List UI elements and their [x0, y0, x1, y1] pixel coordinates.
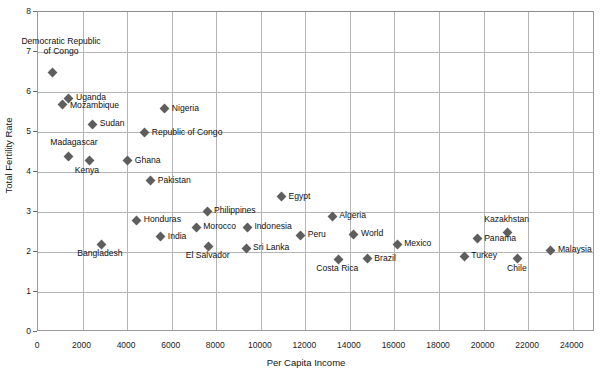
x-tick-label: 24000	[547, 341, 597, 350]
x-tick-label: 4000	[101, 341, 151, 350]
data-point-label: Honduras	[144, 215, 181, 225]
data-point-label: Indonesia	[254, 222, 291, 232]
data-point-label: Sri Lanka	[253, 243, 289, 253]
x-tick-label: 18000	[413, 341, 463, 350]
data-point-marker[interactable]	[546, 245, 556, 255]
data-point-marker[interactable]	[242, 222, 252, 232]
x-tick-label: 22000	[502, 341, 552, 350]
data-point-label: Pakistan	[158, 176, 191, 186]
x-tick-label: 12000	[279, 341, 329, 350]
data-point-label: Brazil	[374, 254, 396, 264]
y-tick-label: 3	[1, 207, 31, 216]
data-point-label: Philippines	[214, 206, 256, 216]
y-tick-mark	[33, 251, 37, 252]
data-point-marker[interactable]	[277, 192, 287, 202]
x-tick-label: 20000	[458, 341, 508, 350]
y-tick-label: 5	[1, 127, 31, 136]
data-point-label: Mexico	[404, 239, 431, 249]
data-point-label: Ghana	[135, 156, 161, 166]
y-tick-label: 2	[1, 247, 31, 256]
data-point-marker[interactable]	[160, 104, 170, 114]
y-axis-title: Total Fertility Rate	[3, 96, 14, 216]
y-tick-mark	[33, 331, 37, 332]
data-point-marker[interactable]	[140, 128, 150, 138]
data-point-label: Peru	[308, 230, 326, 240]
data-point-label: World	[361, 229, 383, 239]
data-point-marker[interactable]	[88, 119, 98, 129]
gridline-horizontal	[38, 292, 593, 293]
data-point-label: India	[168, 232, 187, 242]
y-tick-label: 4	[1, 167, 31, 176]
y-tick-mark	[33, 291, 37, 292]
data-point-label: Sudan	[100, 119, 125, 129]
y-tick-mark	[33, 171, 37, 172]
data-point-label: Costa Rica	[316, 264, 358, 274]
data-point-label: Chile	[507, 264, 527, 274]
data-point-marker[interactable]	[132, 215, 142, 225]
gridline-vertical	[573, 12, 574, 330]
data-point-label: Algeria	[339, 211, 366, 221]
data-point-label: Democratic Republic of Congo	[21, 37, 100, 56]
x-tick-label: 14000	[324, 341, 374, 350]
data-point-marker[interactable]	[202, 206, 212, 216]
y-tick-label: 8	[1, 7, 31, 16]
gridline-vertical	[172, 12, 173, 330]
data-point-label: Panama	[484, 234, 516, 244]
data-point-label: Madagascar	[50, 138, 97, 148]
gridline-vertical	[484, 12, 485, 330]
data-point-label: Kazakhstan	[484, 215, 529, 225]
data-point-label: Nigeria	[172, 104, 199, 114]
y-tick-label: 0	[1, 327, 31, 336]
gridline-vertical	[305, 12, 306, 330]
gridline-vertical	[350, 12, 351, 330]
data-point-marker[interactable]	[472, 234, 482, 244]
data-point-label: Mozambique	[70, 101, 119, 111]
gridline-horizontal	[38, 172, 593, 173]
gridline-horizontal	[38, 52, 593, 53]
y-tick-mark	[33, 211, 37, 212]
gridline-vertical	[216, 12, 217, 330]
data-point-label: Morocco	[203, 222, 236, 232]
x-tick-label: 16000	[368, 341, 418, 350]
data-point-marker[interactable]	[146, 176, 156, 186]
scatter-chart: Total Fertility Rate Per Capita Income 0…	[0, 0, 612, 380]
gridline-vertical	[528, 12, 529, 330]
data-point-label: Egypt	[289, 192, 311, 202]
data-point-marker[interactable]	[156, 232, 166, 242]
data-point-marker[interactable]	[191, 222, 201, 232]
data-point-marker[interactable]	[123, 156, 133, 166]
data-point-label: Republic of Congo	[152, 128, 223, 138]
gridline-horizontal	[38, 132, 593, 133]
data-point-marker[interactable]	[362, 254, 372, 264]
y-tick-label: 1	[1, 287, 31, 296]
data-point-label: Bangladesh	[77, 249, 122, 259]
x-tick-label: 0	[12, 341, 62, 350]
data-point-label: El Salvador	[186, 251, 230, 261]
gridline-vertical	[127, 12, 128, 330]
x-tick-label: 8000	[190, 341, 240, 350]
y-tick-mark	[33, 11, 37, 12]
x-tick-label: 2000	[57, 341, 107, 350]
data-point-label: Malaysia	[558, 245, 592, 255]
gridline-horizontal	[38, 92, 593, 93]
y-tick-mark	[33, 91, 37, 92]
plot-area	[37, 11, 594, 331]
data-point-marker[interactable]	[47, 67, 57, 77]
gridline-vertical	[394, 12, 395, 330]
data-point-marker[interactable]	[296, 230, 306, 240]
gridline-vertical	[261, 12, 262, 330]
x-axis-title: Per Capita Income	[0, 357, 612, 368]
data-point-label: Kenya	[75, 166, 99, 176]
data-point-label: Turkey	[471, 251, 497, 261]
x-tick-label: 6000	[146, 341, 196, 350]
x-tick-label: 10000	[235, 341, 285, 350]
data-point-marker[interactable]	[64, 151, 74, 161]
gridline-vertical	[439, 12, 440, 330]
y-tick-label: 6	[1, 87, 31, 96]
y-tick-mark	[33, 131, 37, 132]
